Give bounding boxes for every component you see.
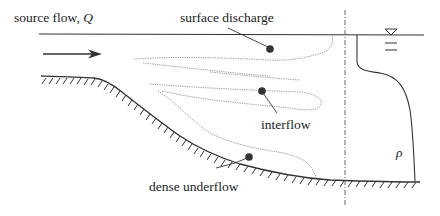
water-surface-line bbox=[39, 34, 424, 35]
density-symbol-label: ρ bbox=[396, 146, 402, 160]
interflow-label: interflow bbox=[261, 118, 311, 132]
sloping-bed bbox=[41, 76, 420, 182]
source-flow-label: source flow, Q bbox=[14, 11, 93, 25]
free-surface-triangle-icon bbox=[385, 29, 397, 50]
interflow-plume-top bbox=[210, 72, 300, 80]
surface-discharge-marker bbox=[228, 28, 274, 53]
diagram-canvas: source flow, Q surface discharge interfl… bbox=[0, 0, 440, 216]
underflow-plume bbox=[158, 91, 316, 178]
surface-discharge-label: surface discharge bbox=[180, 11, 274, 25]
density-profile-curve bbox=[357, 35, 415, 181]
surface-discharge-plume bbox=[134, 35, 333, 60]
surface-discharge-plume-lower bbox=[143, 63, 270, 76]
bed-hatching bbox=[42, 78, 416, 188]
dense-underflow-label: dense underflow bbox=[149, 180, 239, 194]
interflow-plume bbox=[150, 84, 321, 110]
source-flow-symbol: Q bbox=[83, 10, 93, 25]
inflow-arrow-icon bbox=[43, 50, 102, 59]
